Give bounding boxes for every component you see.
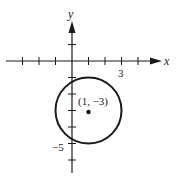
y-axis-arrow-icon	[69, 21, 76, 33]
y-axis-label: y	[67, 7, 74, 21]
center-point	[86, 110, 90, 114]
x-axis-label: x	[163, 54, 170, 68]
x-tick-label-3: 3	[118, 67, 124, 79]
y-tick-label-minus-5: −5	[52, 141, 64, 153]
coordinate-plane: x y 3 −5 (1, −3)	[0, 0, 180, 185]
diagram-canvas: x y 3 −5 (1, −3)	[0, 0, 180, 185]
center-label: (1, −3)	[78, 95, 108, 108]
x-axis-arrow-icon	[150, 58, 162, 65]
